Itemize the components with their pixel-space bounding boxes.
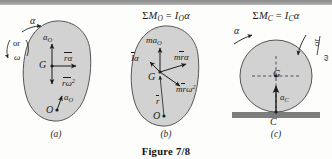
label-omega-a: ω	[14, 53, 20, 62]
omega-curved-arrow-a	[7, 40, 10, 58]
point-C-dot-c	[274, 110, 277, 113]
label-r-alpha-a: rα	[64, 54, 72, 63]
panel-c: ΣMC = ICα G aC C α or ω (c)	[220, 0, 332, 159]
label-omega-c: ω	[321, 55, 330, 61]
alpha-curved-arrow-c	[234, 35, 252, 44]
label-Ibar-alpha-b: Iα	[131, 54, 139, 63]
label-mr-omega2-b: mrω2	[176, 84, 196, 94]
rigid-body-shape-a	[23, 21, 91, 121]
label-alpha-c: α	[234, 26, 239, 36]
point-O-dot-b	[162, 114, 165, 117]
subcaption-c: (c)	[220, 129, 332, 139]
figure-caption: Figure 7/8	[0, 146, 332, 157]
label-mr-alpha-b: mrα	[174, 53, 189, 62]
label-G-c: G	[273, 69, 280, 79]
label-aC-c: aC	[280, 93, 289, 103]
panel-b: ΣMO = IOα maO Iα mrα G mrω2 r O (	[112, 0, 220, 159]
label-r-omega2-a: rω2	[62, 78, 75, 88]
label-G-b: G	[148, 72, 155, 82]
subcaption-b: (b)	[112, 129, 220, 139]
label-or-a: or	[13, 39, 20, 48]
panel-a: aO rα G rω2 aO O α or ω (a)	[0, 0, 112, 159]
figure-page: aO rα G rω2 aO O α or ω (a) ΣMO = IOα	[0, 0, 332, 159]
subcaption-a: (a)	[0, 129, 112, 139]
label-aO-bottom-a: aO	[64, 93, 73, 103]
label-maO-b: maO	[146, 36, 162, 46]
label-or-c: or	[312, 39, 321, 46]
label-G-a: G	[39, 60, 46, 70]
label-aO-top-a: aO	[43, 33, 52, 43]
label-rbar-b: r	[156, 97, 160, 106]
label-alpha-a: α	[30, 16, 35, 26]
label-C-c: C	[270, 117, 277, 127]
label-O-b: O	[153, 111, 160, 121]
label-O-a: O	[46, 105, 53, 115]
